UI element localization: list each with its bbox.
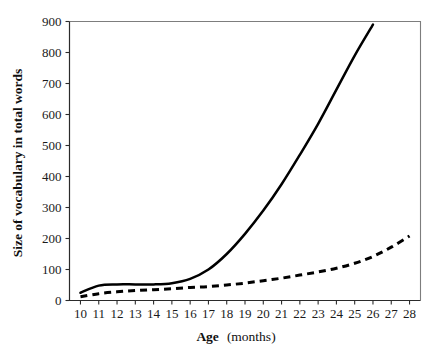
chart-canvas: 0100200300400500600700800900 10111213141… [0,0,446,363]
x-tick-label: 14 [147,306,161,321]
y-tick-label: 700 [42,76,62,91]
x-tick-label: 15 [165,306,178,321]
x-tick-label: 13 [129,306,142,321]
y-tick-label: 800 [42,45,62,60]
x-tick-label: 11 [92,306,105,321]
y-tick-label: 300 [42,200,62,215]
x-tick-label: 23 [312,306,325,321]
x-tick-label: 18 [220,306,233,321]
x-axis-title-unit: (months) [227,329,276,344]
y-axis-title: Size of vocabulary in total words [10,69,25,258]
x-tick-label: 27 [385,306,399,321]
x-tick-label: 12 [111,306,124,321]
x-tick-label: 10 [74,306,87,321]
y-tick-label: 400 [42,169,62,184]
y-tick-label: 500 [42,138,62,153]
y-tick-label: 200 [42,231,62,246]
x-tick-label: 21 [275,306,288,321]
y-tick-label: 900 [42,14,62,29]
x-tick-label: 20 [257,306,270,321]
x-axis-title: Age (months) [196,327,275,344]
x-tick-label: 24 [330,306,344,321]
x-tick-label: 26 [366,306,380,321]
y-tick-label: 600 [42,107,62,122]
x-tick-label: 17 [202,306,216,321]
y-tick-label: 0 [55,293,62,308]
x-tick-label: 25 [348,306,361,321]
x-tick-label: 22 [293,306,306,321]
x-tick-label: 16 [184,306,198,321]
y-tick-label: 100 [42,262,62,277]
x-tick-label: 19 [239,306,252,321]
x-axis-title-bold: Age [196,329,219,344]
vocabulary-growth-chart: 0100200300400500600700800900 10111213141… [0,0,446,363]
x-tick-label: 28 [403,306,416,321]
